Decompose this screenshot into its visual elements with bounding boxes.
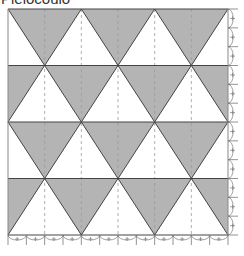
- bottom-scale-marks: [8, 235, 228, 245]
- right-scale-marks: [228, 9, 238, 235]
- triangle-tiling-diagram: [0, 0, 244, 256]
